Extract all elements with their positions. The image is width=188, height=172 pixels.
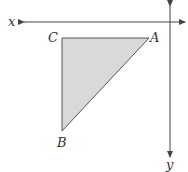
x-axis: x — [8, 14, 185, 29]
vertex-label-a: A — [149, 30, 159, 45]
vertex-label-c: C — [48, 30, 58, 45]
y-axis: y — [165, 6, 174, 172]
vertex-label-b: B — [56, 135, 67, 150]
x-axis-label: x — [8, 14, 16, 29]
triangle-abc: A B C — [48, 30, 159, 150]
triangle-shape — [62, 38, 149, 131]
diagram-canvas: x y A B C — [0, 0, 188, 172]
y-axis-label: y — [165, 157, 174, 172]
